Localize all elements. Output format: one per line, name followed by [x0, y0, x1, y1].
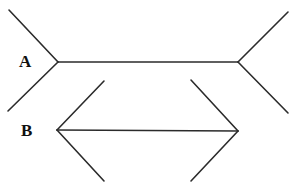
- b-top-right-fin: [191, 80, 238, 131]
- figure-b-group: [57, 80, 238, 181]
- a-top-right-fin: [238, 12, 288, 62]
- a-top-left-fin: [9, 10, 58, 62]
- illusion-line-art: [0, 0, 294, 183]
- figure-a-group: [8, 10, 288, 113]
- figure-b-label: B: [21, 122, 32, 139]
- illusion-figure: A B: [0, 0, 294, 183]
- b-bottom-left-fin: [57, 130, 104, 181]
- a-bottom-right-fin: [238, 62, 288, 113]
- b-shaft: [57, 130, 238, 131]
- figure-a-label: A: [19, 53, 31, 70]
- b-top-left-fin: [57, 81, 104, 130]
- a-bottom-left-fin: [8, 62, 58, 111]
- b-bottom-right-fin: [191, 131, 238, 181]
